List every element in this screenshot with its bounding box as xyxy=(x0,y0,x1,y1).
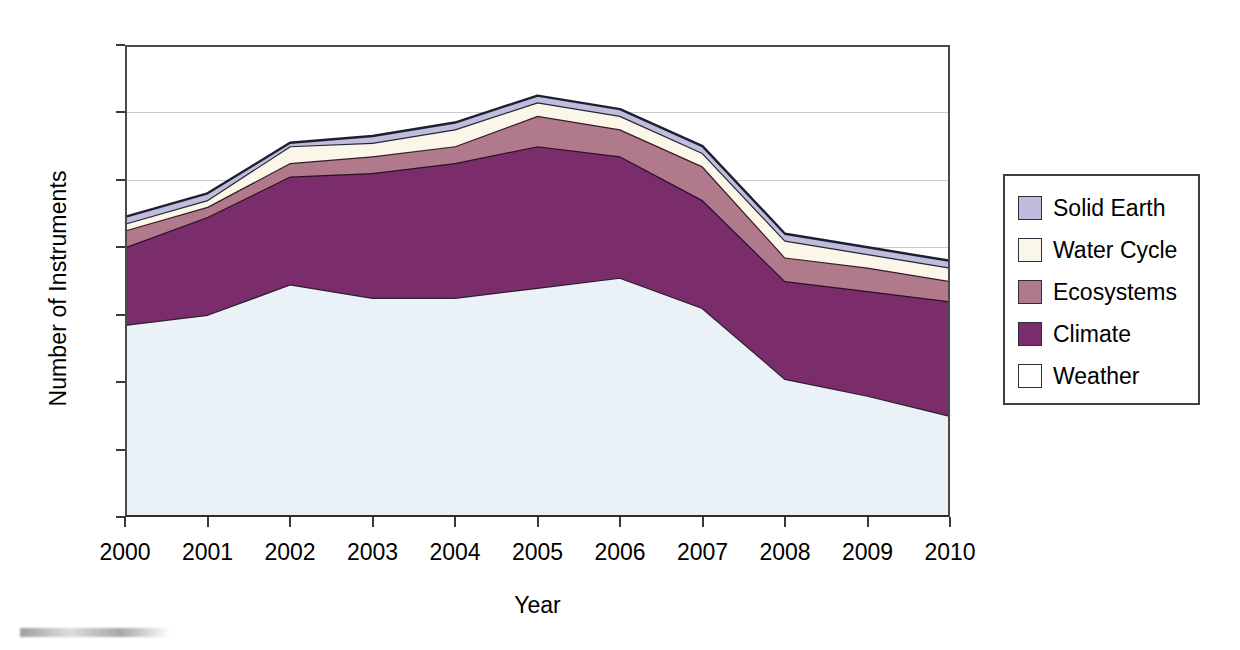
x-tick-mark xyxy=(784,517,786,527)
x-tick-mark xyxy=(207,517,209,527)
x-tick-label: 2002 xyxy=(250,539,330,566)
legend-item-water-cycle[interactable]: Water Cycle xyxy=(1018,229,1198,271)
legend-swatch-icon xyxy=(1018,196,1042,220)
y-tick-mark xyxy=(116,44,125,46)
legend-label: Climate xyxy=(1053,321,1131,348)
x-tick-label: 2005 xyxy=(498,539,578,566)
x-tick-mark xyxy=(289,517,291,527)
x-tick-label: 2004 xyxy=(415,539,495,566)
legend-swatch-icon xyxy=(1018,280,1042,304)
x-tick-label: 2001 xyxy=(168,539,248,566)
y-tick-mark xyxy=(116,314,125,316)
plot-area: 020406080100120140 200020012002200320042… xyxy=(125,45,950,517)
x-tick-mark xyxy=(372,517,374,527)
y-tick-mark xyxy=(116,246,125,248)
legend-swatch-icon xyxy=(1018,364,1042,388)
legend-item-weather[interactable]: Weather xyxy=(1018,355,1198,397)
x-tick-mark xyxy=(537,517,539,527)
x-tick-mark xyxy=(619,517,621,527)
legend-item-solid-earth[interactable]: Solid Earth xyxy=(1018,187,1198,229)
x-tick-mark xyxy=(702,517,704,527)
y-tick-mark xyxy=(116,381,125,383)
y-tick-mark xyxy=(116,179,125,181)
legend-swatch-icon xyxy=(1018,238,1042,262)
plot-frame xyxy=(125,45,950,517)
legend-label: Water Cycle xyxy=(1053,237,1177,264)
legend-box: Solid EarthWater CycleEcosystemsClimateW… xyxy=(1003,174,1200,405)
scan-artifact xyxy=(20,628,170,637)
x-tick-label: 2010 xyxy=(910,539,990,566)
x-axis-title: Year xyxy=(125,592,950,619)
x-tick-mark xyxy=(949,517,951,527)
x-tick-mark xyxy=(867,517,869,527)
legend-item-ecosystems[interactable]: Ecosystems xyxy=(1018,271,1198,313)
y-tick-mark xyxy=(116,449,125,451)
y-axis-title: Number of Instruments xyxy=(45,79,72,499)
legend-label: Solid Earth xyxy=(1053,195,1166,222)
y-tick-mark xyxy=(116,111,125,113)
legend-label: Ecosystems xyxy=(1053,279,1177,306)
legend-swatch-icon xyxy=(1018,322,1042,346)
x-tick-label: 2009 xyxy=(828,539,908,566)
x-tick-mark xyxy=(454,517,456,527)
x-tick-label: 2006 xyxy=(580,539,660,566)
legend-item-climate[interactable]: Climate xyxy=(1018,313,1198,355)
x-tick-label: 2008 xyxy=(745,539,825,566)
chart-canvas: Number of Instruments Year 0204060801001… xyxy=(0,0,1240,650)
x-tick-label: 2007 xyxy=(663,539,743,566)
x-tick-label: 2003 xyxy=(333,539,413,566)
legend-label: Weather xyxy=(1053,363,1140,390)
x-tick-label: 2000 xyxy=(85,539,165,566)
x-tick-mark xyxy=(124,517,126,527)
